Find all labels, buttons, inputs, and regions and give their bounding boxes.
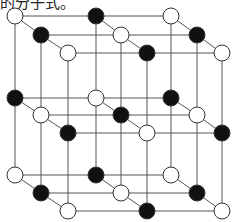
black-atom bbox=[214, 125, 230, 141]
white-atom bbox=[88, 90, 104, 106]
white-atom bbox=[163, 167, 179, 183]
black-atom bbox=[88, 167, 104, 183]
black-atom bbox=[139, 45, 155, 61]
white-atom bbox=[7, 8, 23, 24]
white-atom bbox=[214, 203, 230, 219]
white-atom bbox=[189, 107, 205, 123]
white-atom bbox=[214, 45, 230, 61]
black-atom bbox=[7, 90, 23, 106]
black-atom bbox=[33, 185, 49, 201]
black-atom bbox=[60, 125, 76, 141]
white-atom bbox=[33, 107, 49, 123]
white-atom bbox=[139, 125, 155, 141]
white-atom bbox=[60, 203, 76, 219]
white-atom bbox=[113, 27, 129, 43]
black-atom bbox=[189, 185, 205, 201]
black-atom bbox=[189, 27, 205, 43]
white-atom bbox=[163, 8, 179, 24]
crystal-lattice-diagram bbox=[0, 0, 234, 222]
black-atom bbox=[88, 8, 104, 24]
white-atom bbox=[7, 167, 23, 183]
white-atom bbox=[113, 185, 129, 201]
black-atom bbox=[33, 27, 49, 43]
black-atom bbox=[139, 203, 155, 219]
black-atom bbox=[113, 107, 129, 123]
black-atom bbox=[163, 90, 179, 106]
white-atom bbox=[60, 45, 76, 61]
